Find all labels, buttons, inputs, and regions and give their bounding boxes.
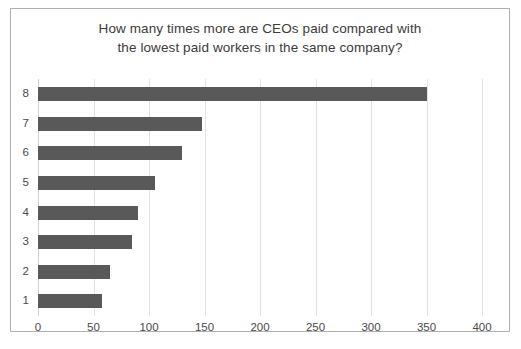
- y-axis-label-7: 7: [23, 116, 29, 131]
- y-axis-label-4: 4: [23, 205, 29, 220]
- chart-frame: How many times more are CEOs paid compar…: [10, 8, 510, 332]
- x-tick-label-200: 200: [250, 321, 269, 333]
- x-tick-label-50: 50: [87, 321, 100, 333]
- y-axis-label-1: 1: [23, 293, 29, 308]
- bar-row: 3: [38, 227, 482, 257]
- x-tick-label-150: 150: [195, 321, 214, 333]
- x-tick-label-300: 300: [361, 321, 380, 333]
- plot-area: 12345678: [38, 79, 482, 316]
- x-tick-label-100: 100: [139, 321, 158, 333]
- gridline-400: [482, 79, 483, 316]
- bar-5: [38, 176, 155, 190]
- x-tick-label-350: 350: [417, 321, 436, 333]
- bar-4: [38, 206, 138, 220]
- chart-title: How many times more are CEOs paid compar…: [11, 19, 509, 57]
- bar-row: 6: [38, 138, 482, 168]
- bar-3: [38, 235, 132, 249]
- x-tick-label-250: 250: [306, 321, 325, 333]
- x-tick-label-0: 0: [35, 321, 41, 333]
- bar-8: [38, 87, 427, 101]
- bar-row: 8: [38, 79, 482, 109]
- chart-title-line-2: the lowest paid workers in the same comp…: [11, 38, 509, 57]
- bar-6: [38, 146, 182, 160]
- bar-row: 2: [38, 257, 482, 287]
- y-axis-label-2: 2: [23, 264, 29, 279]
- bar-series: 12345678: [38, 79, 482, 316]
- bar-2: [38, 265, 110, 279]
- y-axis-label-3: 3: [23, 234, 29, 249]
- chart-title-line-1: How many times more are CEOs paid compar…: [11, 19, 509, 38]
- y-axis-label-5: 5: [23, 175, 29, 190]
- bar-row: 7: [38, 109, 482, 139]
- bar-7: [38, 117, 202, 131]
- bar-row: 5: [38, 168, 482, 198]
- y-axis-label-6: 6: [23, 145, 29, 160]
- bar-row: 1: [38, 286, 482, 316]
- x-axis: 050100150200250300350400: [38, 321, 482, 337]
- bar-1: [38, 294, 102, 308]
- x-tick-label-400: 400: [472, 321, 491, 333]
- y-axis-label-8: 8: [23, 86, 29, 101]
- bar-row: 4: [38, 198, 482, 228]
